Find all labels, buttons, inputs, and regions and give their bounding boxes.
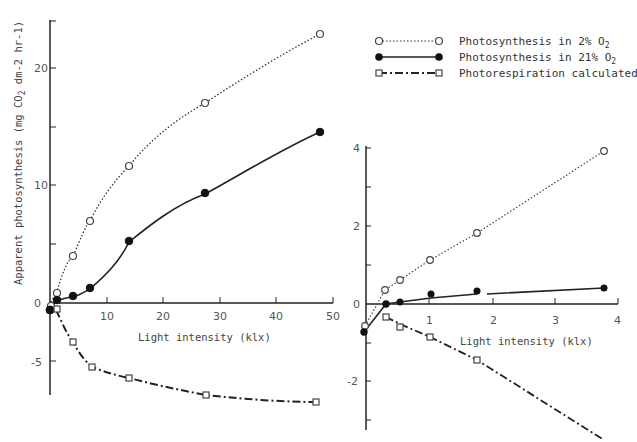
left-y-axis-label: Apparent photosynthesis (mg CO2 dm-2 hr-… [12,21,27,285]
right-ytick-0: 0 [353,298,360,311]
left-xtick-20: 20 [156,310,170,323]
svg-text:Photosynthesis in 2% O2: Photosynthesis in 2% O2 [459,35,610,50]
legend-item-photoresp: Photorespiration calculated [376,67,637,80]
right-xtick-1: 1 [426,314,433,327]
right-x-axis-label: Light intensity (klx) [460,335,593,347]
legend-item-21pct: Photosynthesis in 21% O2 [375,51,616,66]
left-xtick-10: 10 [100,310,114,323]
left-series-2pct-line [50,34,320,306]
left-ytick-0: 0 [34,297,41,310]
photosynthesis-chart: 20 10 0 -5 10 20 30 40 50 Light intensit… [0,0,637,442]
left-xtick-30: 30 [213,310,227,323]
right-ytick-minus2: -2 [347,375,358,388]
right-xtick-4: 4 [614,314,621,327]
svg-text:Photorespiration calculated: Photorespiration calculated [459,67,637,80]
left-ytick-20: 20 [34,62,48,75]
right-xtick-2: 2 [490,314,497,327]
left-series-photoresp-line [56,310,316,402]
left-plot: 20 10 0 -5 10 20 30 40 50 Light intensit… [12,20,340,405]
left-xtick-40: 40 [269,310,283,323]
svg-text:Photosynthesis in 21% O2: Photosynthesis in 21% O2 [459,51,616,66]
left-x-axis-label: Light intensity (klx) [138,331,271,343]
left-ytick-minus5: -5 [31,356,42,369]
left-ytick-10: 10 [34,179,48,192]
left-xtick-50: 50 [326,310,340,323]
right-ytick-4: 4 [353,142,360,155]
right-xtick-3: 3 [552,314,559,327]
legend-item-2pct: Photosynthesis in 2% O2 [376,35,610,50]
legend: Photosynthesis in 2% O2 Photosynthesis i… [375,35,637,80]
left-markers-2pct [48,31,324,310]
right-ytick-2: 2 [353,220,360,233]
right-plot: 4 2 0 -2 1 2 3 4 Light intensity (klx) [347,142,621,440]
